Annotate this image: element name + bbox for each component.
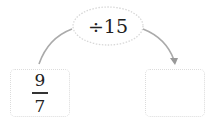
diagram-canvas: ÷15 9 7 (0, 0, 220, 125)
numerator: 9 (35, 71, 46, 89)
left-arc-line (39, 29, 72, 64)
arrowhead-icon (170, 58, 178, 65)
fraction-bar (32, 92, 48, 93)
input-fraction: 9 7 (32, 71, 48, 114)
denominator: 7 (35, 97, 46, 115)
input-box: 9 7 (10, 69, 70, 117)
right-arc-arrow (143, 29, 174, 60)
answer-box[interactable] (145, 69, 205, 117)
operation-label: ÷15 (74, 8, 142, 44)
